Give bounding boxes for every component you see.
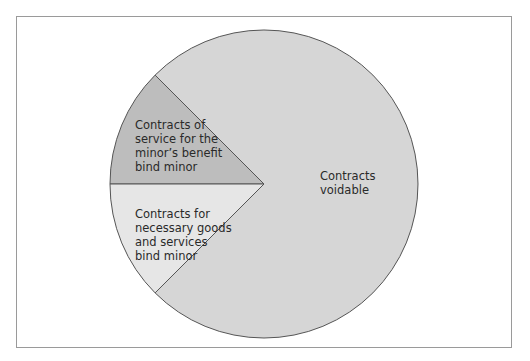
slice-label: Contractsvoidable — [320, 169, 375, 197]
pie-chart: Contracts ofservice for theminor’s benef… — [0, 0, 530, 361]
